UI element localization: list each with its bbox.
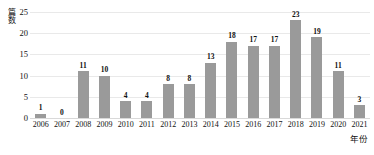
gridline <box>30 118 370 119</box>
bar <box>35 114 46 118</box>
bar-value-label: 8 <box>166 75 170 83</box>
bar-value-label: 19 <box>313 28 321 36</box>
x-axis-title: 年份 <box>350 134 368 144</box>
bar-value-label: 17 <box>271 36 279 44</box>
bar-slot: 10 <box>94 12 115 118</box>
bar <box>269 46 280 118</box>
bar-value-label: 4 <box>124 92 128 100</box>
bar-chart: 篇数 0510152025 1011104488131817172319113 … <box>0 0 374 155</box>
x-axis-tick-label: 2012 <box>158 120 179 132</box>
bar-value-label: 1 <box>39 104 43 112</box>
bar-slot: 23 <box>285 12 306 118</box>
x-axis-tick-label: 2015 <box>221 120 242 132</box>
bar-value-label: 17 <box>249 36 257 44</box>
bar-slot: 4 <box>115 12 136 118</box>
bar-value-label: 18 <box>228 32 236 40</box>
bar-slot: 17 <box>243 12 264 118</box>
bar <box>120 101 131 118</box>
x-axis-tick-label: 2009 <box>94 120 115 132</box>
x-axis-tick-label: 2020 <box>328 120 349 132</box>
bar <box>141 101 152 118</box>
bar <box>354 105 365 118</box>
bar-value-label: 10 <box>101 66 109 74</box>
bar <box>248 46 259 118</box>
bar <box>205 63 216 118</box>
x-axis-tick-label: 2011 <box>136 120 157 132</box>
bar-series: 1011104488131817172319113 <box>30 12 370 118</box>
x-axis-tick-label: 2018 <box>285 120 306 132</box>
bar <box>290 20 301 118</box>
bar-slot: 8 <box>158 12 179 118</box>
bar-value-label: 0 <box>60 109 64 117</box>
bar <box>78 71 89 118</box>
x-axis-tick-label: 2007 <box>51 120 72 132</box>
bar-value-label: 23 <box>292 11 300 19</box>
y-axis-tick-label: 20 <box>20 29 29 38</box>
bar <box>163 84 174 118</box>
bar <box>226 42 237 118</box>
bar-slot: 4 <box>136 12 157 118</box>
x-axis-tick-label: 2017 <box>264 120 285 132</box>
y-axis-tick-labels: 0510152025 <box>12 12 28 118</box>
bar-slot: 17 <box>264 12 285 118</box>
bar-value-label: 3 <box>358 96 362 104</box>
bar-slot: 19 <box>306 12 327 118</box>
bar-slot: 18 <box>221 12 242 118</box>
x-axis-tick-label: 2016 <box>243 120 264 132</box>
bar-value-label: 13 <box>207 53 215 61</box>
bar-slot: 11 <box>73 12 94 118</box>
bar-value-label: 11 <box>80 62 87 70</box>
x-axis-tick-label: 2013 <box>179 120 200 132</box>
x-axis-tick-label: 2008 <box>73 120 94 132</box>
y-axis-tick-label: 10 <box>20 71 29 80</box>
bar <box>333 71 344 118</box>
bar-slot: 13 <box>200 12 221 118</box>
bar <box>184 84 195 118</box>
bar <box>99 76 110 118</box>
bar-value-label: 8 <box>188 75 192 83</box>
x-axis-tick-label: 2021 <box>349 120 370 132</box>
bar-value-label: 4 <box>145 92 149 100</box>
y-axis-tick-label: 5 <box>24 93 28 102</box>
bar-slot: 0 <box>51 12 72 118</box>
bar-slot: 8 <box>179 12 200 118</box>
bar-slot: 11 <box>328 12 349 118</box>
bar-value-label: 11 <box>335 62 342 70</box>
x-axis-tick-label: 2010 <box>115 120 136 132</box>
y-axis-tick-label: 25 <box>20 8 29 17</box>
y-axis-tick-label: 0 <box>24 114 28 123</box>
bar-slot: 1 <box>30 12 51 118</box>
x-axis-tick-labels: 2006200720082009201020112012201320142015… <box>30 120 370 132</box>
bar-slot: 3 <box>349 12 370 118</box>
plot-area: 1011104488131817172319113 <box>30 12 370 118</box>
x-axis-tick-label: 2019 <box>306 120 327 132</box>
x-axis-tick-label: 2006 <box>30 120 51 132</box>
y-axis-tick-label: 15 <box>20 50 29 59</box>
x-axis-tick-label: 2014 <box>200 120 221 132</box>
bar <box>311 37 322 118</box>
